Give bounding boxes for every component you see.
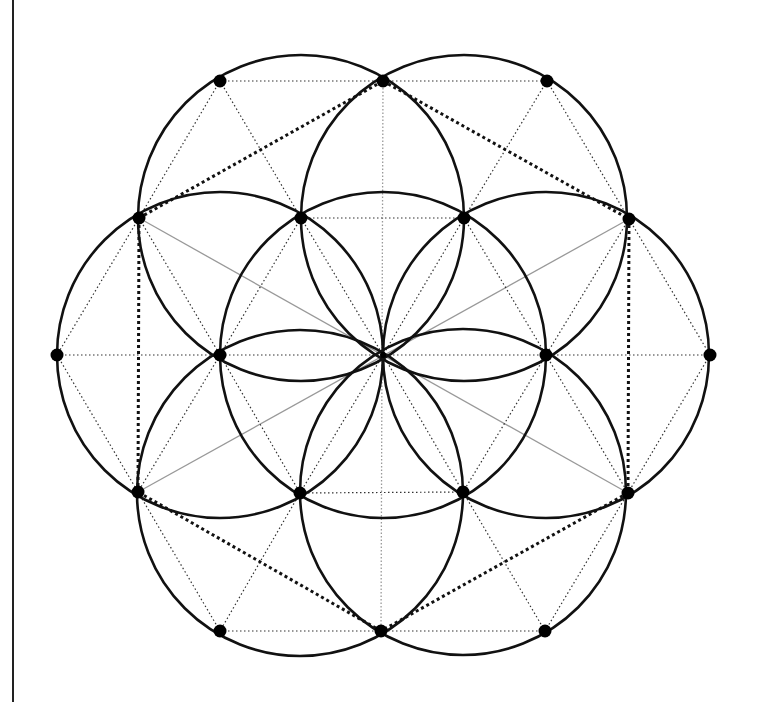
hexagon-edge-dotted xyxy=(628,219,629,493)
vertex-point xyxy=(294,487,307,500)
vertex-point xyxy=(295,212,308,225)
vertex-point xyxy=(704,349,717,362)
center-point xyxy=(380,352,386,358)
thin-dotted-line xyxy=(628,355,710,493)
thin-dotted-line xyxy=(300,492,463,493)
thin-dotted-line xyxy=(546,355,628,493)
vertex-point xyxy=(458,212,471,225)
thin-dotted-line xyxy=(138,355,220,492)
vertex-point xyxy=(51,349,64,362)
thin-dotted-line xyxy=(629,219,710,355)
thin-dotted-line xyxy=(139,218,220,355)
vertex-point xyxy=(623,213,636,226)
vertex-point xyxy=(132,486,145,499)
vertex-point xyxy=(541,75,554,88)
vertex-point xyxy=(214,625,227,638)
vertex-point xyxy=(540,349,553,362)
thin-dotted-line xyxy=(57,355,138,492)
vertex-point xyxy=(375,625,388,638)
thin-dotted-line xyxy=(546,219,629,355)
vertex-point xyxy=(214,349,227,362)
vertex-point xyxy=(622,487,635,500)
seed-of-life-diagram xyxy=(0,0,761,705)
vertex-point xyxy=(133,212,146,225)
thin-dotted-line xyxy=(57,218,139,355)
vertex-point xyxy=(214,75,227,88)
vertex-point xyxy=(457,486,470,499)
vertex-point xyxy=(377,75,390,88)
vertex-point xyxy=(539,625,552,638)
